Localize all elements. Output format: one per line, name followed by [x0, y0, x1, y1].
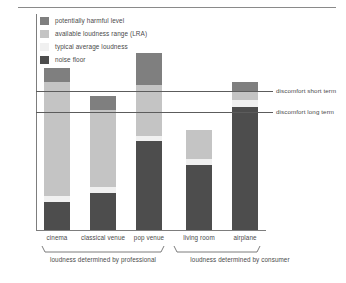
discomfort-short-term-label: discomfort short term [276, 87, 336, 94]
bar-segment-noise-floor [232, 107, 258, 230]
bar-segment-potentially-harmful-level [232, 82, 258, 91]
discomfort-short-term-line [36, 91, 273, 92]
bar-segment-potentially-harmful-level [136, 53, 162, 85]
bar-segment-available-loudness-range-lra- [186, 130, 212, 159]
chart-figure: potentially harmful level available loud… [0, 0, 346, 283]
bar-segment-available-loudness-range-lra- [90, 110, 116, 187]
bar-living-room [186, 130, 212, 230]
group-bracket-consumer [172, 246, 262, 254]
bar-segment-potentially-harmful-level [90, 96, 116, 110]
bar-segment-available-loudness-range-lra- [232, 91, 258, 100]
x-axis-line [36, 230, 266, 231]
bar-pop-venue [136, 53, 162, 230]
plot-area [36, 14, 266, 231]
bar-airplane [232, 82, 258, 230]
bar-segment-available-loudness-range-lra- [136, 85, 162, 136]
group-label-consumer: loudness determined by consumer [180, 256, 300, 263]
bar-segment-potentially-harmful-level [44, 68, 70, 82]
bar-segment-noise-floor [136, 141, 162, 230]
group-bracket-professional [40, 246, 166, 254]
bar-segment-noise-floor [186, 165, 212, 230]
top-divider [18, 7, 336, 8]
bar-segment-available-loudness-range-lra- [44, 82, 70, 196]
y-axis-line [36, 14, 37, 231]
bar-classical-venue [90, 96, 116, 230]
x-label-airplane: airplane [215, 234, 275, 241]
bar-segment-noise-floor [90, 193, 116, 230]
bar-segment-noise-floor [44, 202, 70, 230]
discomfort-long-term-line [36, 112, 273, 113]
discomfort-long-term-label: discomfort long term [276, 108, 334, 115]
bar-cinema [44, 68, 70, 230]
group-label-professional: loudness determined by professional [28, 256, 178, 263]
